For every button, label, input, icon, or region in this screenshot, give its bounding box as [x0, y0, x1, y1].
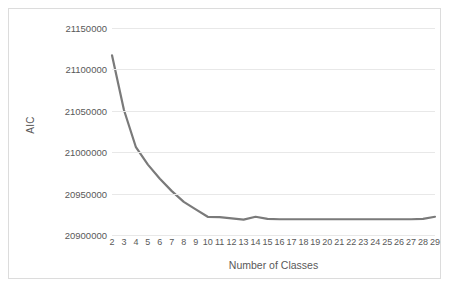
- y-axis-tick-labels: 2090000020950000210000002105000021100000…: [41, 9, 107, 289]
- gridline-y: [112, 152, 435, 153]
- x-axis-tick-label: 23: [358, 237, 368, 247]
- x-axis-tick-label: 10: [203, 237, 213, 247]
- x-axis-tick-label: 12: [227, 237, 237, 247]
- x-axis-tick-label: 13: [239, 237, 249, 247]
- x-axis-tick-label: 17: [286, 237, 296, 247]
- x-axis-tick-label: 16: [274, 237, 284, 247]
- gridline-y: [112, 69, 435, 70]
- y-axis-tick-label: 20900000: [41, 230, 107, 241]
- x-axis-tick-label: 24: [370, 237, 380, 247]
- x-axis-tick-label: 5: [145, 237, 150, 247]
- y-axis-tick-label: 21100000: [41, 64, 107, 75]
- y-axis-tick-label: 21000000: [41, 147, 107, 158]
- x-axis-tick-label: 28: [418, 237, 428, 247]
- y-axis-tick-label: 21150000: [41, 23, 107, 34]
- x-axis-tick-label: 4: [133, 237, 138, 247]
- x-axis-tick-label: 8: [181, 237, 186, 247]
- series-line-aic: [112, 28, 435, 235]
- x-axis-tick-label: 25: [382, 237, 392, 247]
- x-axis-tick-label: 15: [263, 237, 273, 247]
- x-axis-tick-label: 6: [157, 237, 162, 247]
- gridline-y: [112, 28, 435, 29]
- x-axis-tick-label: 7: [169, 237, 174, 247]
- plot-area: [112, 28, 435, 235]
- x-axis-tick-label: 26: [394, 237, 404, 247]
- gridline-y: [112, 235, 435, 236]
- x-axis-tick-label: 11: [215, 237, 224, 247]
- series-path-aic: [112, 55, 435, 219]
- x-axis-tick-label: 9: [193, 237, 198, 247]
- gridline-y: [112, 194, 435, 195]
- gridline-y: [112, 111, 435, 112]
- x-axis-title: Number of Classes: [112, 259, 435, 271]
- chart-frame: AIC 209000002095000021000000210500002110…: [8, 8, 441, 279]
- x-axis-tick-label: 21: [334, 237, 344, 247]
- x-axis-tick-label: 27: [406, 237, 416, 247]
- x-axis-tick-label: 20: [322, 237, 332, 247]
- y-axis-tick-label: 20950000: [41, 188, 107, 199]
- x-axis-tick-label: 3: [121, 237, 126, 247]
- x-axis-tick-label: 29: [430, 237, 440, 247]
- x-axis-tick-label: 2: [109, 237, 114, 247]
- y-axis-tick-label: 21050000: [41, 105, 107, 116]
- x-axis-tick-label: 18: [298, 237, 308, 247]
- x-axis-tick-labels: 2345678910111213141516171819202122232425…: [112, 237, 435, 251]
- x-axis-tick-label: 22: [346, 237, 356, 247]
- x-axis-tick-label: 14: [251, 237, 261, 247]
- x-axis-tick-label: 19: [310, 237, 320, 247]
